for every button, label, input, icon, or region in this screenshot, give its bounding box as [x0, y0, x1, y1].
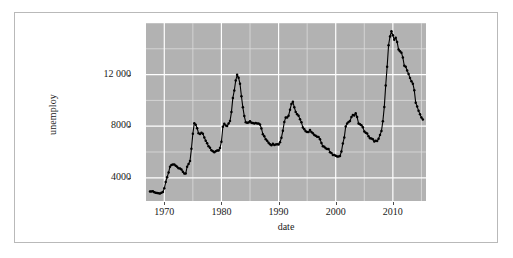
data-point [339, 155, 342, 158]
data-point [376, 140, 379, 143]
data-point [293, 106, 296, 109]
data-point [414, 101, 417, 104]
chart-canvas [146, 23, 426, 201]
x-axis-tick-mark [164, 202, 165, 205]
x-axis-tick-mark [221, 202, 222, 205]
data-point [262, 133, 265, 136]
data-point [386, 65, 389, 68]
data-point [419, 113, 422, 116]
data-point [279, 141, 282, 144]
data-point [383, 106, 386, 109]
data-point [237, 77, 240, 80]
unemploy-points [149, 30, 424, 195]
data-point [354, 112, 357, 115]
data-point [233, 89, 236, 92]
data-point [220, 140, 223, 143]
data-point [282, 130, 285, 133]
data-point [167, 171, 170, 174]
data-point [410, 80, 413, 83]
data-point [420, 116, 423, 119]
data-point [226, 125, 229, 128]
data-point [187, 163, 190, 166]
data-point [382, 120, 385, 123]
data-point [340, 150, 343, 153]
data-point [317, 136, 320, 139]
data-point [366, 132, 369, 135]
data-point [416, 105, 419, 108]
data-point [319, 138, 322, 141]
x-axis-tick-mark [336, 202, 337, 205]
data-point [204, 140, 207, 143]
data-point [342, 142, 345, 145]
data-point [406, 69, 409, 72]
data-point [422, 118, 425, 121]
data-point [307, 131, 310, 134]
data-point [350, 116, 353, 119]
data-point [394, 36, 397, 39]
data-point [309, 129, 312, 132]
data-point [277, 143, 280, 146]
data-point [234, 79, 237, 82]
data-point [372, 138, 375, 141]
data-point [227, 122, 230, 125]
data-point [407, 73, 410, 76]
data-point [396, 41, 399, 44]
data-point [259, 123, 262, 126]
data-point [290, 103, 293, 106]
figure-frame: unemploy date 4000800012 000 19701980199… [14, 12, 498, 243]
data-point [180, 168, 183, 171]
data-point [217, 149, 220, 152]
data-point [236, 74, 239, 77]
data-point [320, 142, 323, 145]
data-point [189, 160, 192, 163]
data-point [392, 34, 395, 37]
x-axis-tick-label: 2000 [306, 206, 366, 217]
data-point [377, 137, 380, 140]
data-point [190, 148, 193, 151]
data-point [409, 77, 412, 80]
data-point [400, 51, 403, 54]
data-point [196, 127, 199, 130]
chart-plot-area: unemploy date 4000800012 000 19701980199… [15, 13, 499, 244]
data-point [417, 110, 420, 113]
data-point [402, 56, 405, 59]
data-point [294, 111, 297, 114]
unemploy-line [150, 31, 423, 193]
x-axis-tick-label: 1970 [134, 206, 194, 217]
data-point [413, 89, 416, 92]
data-point [263, 135, 266, 138]
data-point [343, 136, 346, 139]
data-point [353, 114, 356, 117]
data-point [222, 125, 225, 128]
data-point [166, 176, 169, 179]
data-point [192, 132, 195, 135]
data-point [393, 39, 396, 42]
data-point [206, 142, 209, 145]
data-point [232, 97, 235, 100]
data-point [194, 123, 197, 126]
data-point [242, 106, 245, 109]
data-point [186, 165, 189, 168]
data-point [360, 124, 363, 127]
data-point [379, 134, 382, 137]
data-point [289, 109, 292, 112]
data-point [260, 127, 263, 130]
data-point [283, 121, 286, 124]
data-point [202, 132, 205, 135]
data-point [203, 136, 206, 139]
data-point [327, 148, 330, 151]
data-point [303, 128, 306, 131]
data-point [280, 136, 283, 139]
data-point [390, 30, 393, 33]
data-point [349, 120, 352, 123]
data-point [163, 187, 166, 190]
data-point [297, 115, 300, 118]
data-point [209, 147, 212, 150]
data-point [287, 114, 290, 117]
data-point [162, 191, 165, 194]
data-point [243, 115, 246, 118]
data-point [387, 44, 390, 47]
data-point [380, 130, 383, 133]
data-point [164, 181, 167, 184]
data-point [389, 35, 392, 38]
